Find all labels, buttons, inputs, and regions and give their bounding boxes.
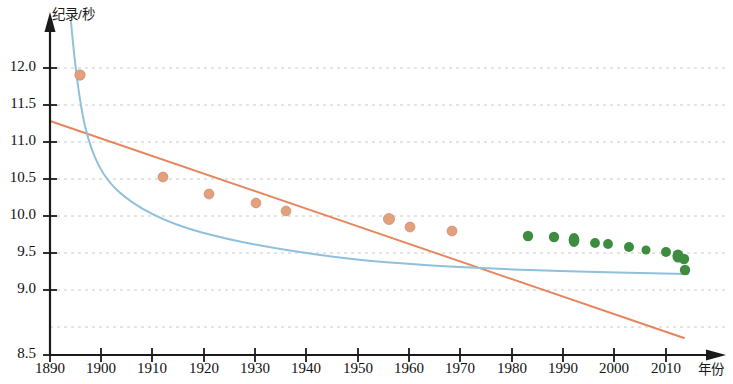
x-tick-label-1930: 1930 — [232, 360, 278, 377]
data-point-2009 — [680, 265, 690, 275]
record-vs-year-chart: 纪录/秒 年份 12.0 11.5 11.0 10.5 10.0 9.5 9.0… — [0, 0, 733, 384]
y-tick-label-10-5: 10.5 — [0, 169, 36, 186]
y-tick-label-12-0: 12.0 — [0, 58, 36, 75]
data-point-1960 — [405, 222, 415, 232]
data-point-2008 — [679, 254, 689, 264]
x-tick-label-2000: 2000 — [591, 360, 637, 377]
x-tick-label-1920: 1920 — [181, 360, 227, 377]
y-axis — [45, 12, 56, 356]
data-point-1988 — [549, 232, 559, 242]
data-point-1991 — [569, 233, 580, 247]
x-tick-label-1990: 1990 — [540, 360, 586, 377]
y-tick-label-10-0: 10.0 — [0, 206, 36, 223]
y-tick-label-9-0: 9.0 — [0, 280, 36, 297]
gridlines — [50, 68, 726, 327]
x-tick-label-1960: 1960 — [386, 360, 432, 377]
y-tick-label-11-5: 11.5 — [0, 95, 36, 112]
data-point-1994 — [603, 239, 613, 249]
x-tick-label-1890: 1890 — [27, 360, 73, 377]
y-axis-title: 纪录/秒 — [52, 3, 95, 23]
early-era-points — [75, 70, 457, 236]
y-tick-label-11-0: 11.0 — [0, 132, 36, 149]
data-point-1983 — [523, 231, 533, 241]
x-tick-label-1940: 1940 — [283, 360, 329, 377]
data-point-2005 — [661, 247, 671, 257]
data-point-1996 — [624, 242, 634, 252]
x-tick-label-1970: 1970 — [437, 360, 483, 377]
data-point-1912 — [158, 172, 168, 182]
x-tick-label-1910: 1910 — [129, 360, 175, 377]
data-point-1896 — [75, 70, 85, 80]
x-tick-label-2010: 2010 — [643, 360, 689, 377]
data-point-1956 — [383, 213, 394, 224]
x-tick-label-1900: 1900 — [78, 360, 124, 377]
data-point-1999 — [642, 246, 651, 255]
data-point-1921 — [204, 189, 214, 199]
x-tick-label-1980: 1980 — [489, 360, 535, 377]
y-tick-label-9-5: 9.5 — [0, 243, 36, 260]
linear-fit-line — [50, 121, 684, 338]
data-point-1968 — [447, 226, 457, 236]
data-point-1936 — [281, 206, 291, 216]
x-tick-label-1950: 1950 — [335, 360, 381, 377]
x-axis-title: 年份 — [698, 358, 724, 378]
chart-plot-area — [0, 0, 733, 384]
curve-fit-line — [71, 22, 688, 274]
data-point-1993 — [590, 238, 600, 248]
data-point-1930 — [251, 198, 261, 208]
